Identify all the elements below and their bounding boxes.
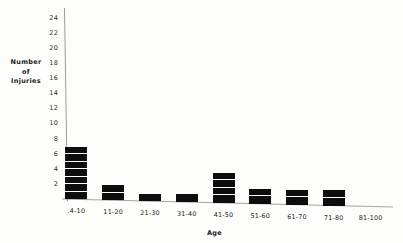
- x-tick-81-100: 81-100: [348, 214, 394, 222]
- bar-segment: [249, 196, 271, 204]
- bar: [65, 146, 87, 199]
- bar-segment: [65, 169, 87, 177]
- bar-segment: [286, 197, 308, 205]
- bar-segment: [65, 177, 87, 185]
- bar-segment: [65, 184, 87, 192]
- bar: [249, 189, 271, 204]
- x-axis-title: Age: [13, 229, 403, 237]
- bar: [139, 194, 161, 202]
- bar-segment: [65, 147, 87, 155]
- bar-segment: [213, 180, 235, 188]
- y-tick-8: 8: [36, 135, 58, 143]
- bar-segment: [65, 162, 87, 170]
- bar-segment: [323, 190, 345, 198]
- bar: [102, 185, 124, 200]
- bar-segment: [213, 173, 235, 181]
- bar-segment: [176, 194, 198, 202]
- bar-segment: [213, 188, 235, 196]
- bar-segment: [139, 194, 161, 202]
- bar-segment: [102, 185, 124, 193]
- plot-area: 24681012141618202224 .4-1011-2021-3031-4…: [62, 8, 393, 201]
- bar: [176, 194, 198, 202]
- y-tick-12: 12: [36, 104, 58, 112]
- y-tick-20: 20: [36, 44, 58, 52]
- y-tick-2: 2: [36, 180, 58, 188]
- bar-segment: [323, 198, 345, 206]
- y-tick-4: 4: [36, 165, 58, 173]
- y-tick-6: 6: [36, 150, 58, 158]
- bar-segment: [249, 189, 271, 197]
- bar-segment: [65, 192, 87, 200]
- bar-segment: [102, 193, 124, 201]
- bar: [213, 173, 235, 203]
- bar-segment: [65, 154, 87, 162]
- y-tick-10: 10: [36, 119, 58, 127]
- y-tick-24: 24: [36, 14, 58, 22]
- y-tick-18: 18: [36, 59, 58, 67]
- bar-chart: Number of Injuries 24681012141618202224 …: [0, 0, 403, 243]
- bar: [323, 190, 345, 205]
- bar-segment: [286, 190, 308, 198]
- bar-segment: [213, 195, 235, 203]
- bar: [286, 190, 308, 205]
- y-tick-22: 22: [36, 29, 58, 37]
- y-tick-16: 16: [36, 74, 58, 82]
- y-tick-14: 14: [36, 89, 58, 97]
